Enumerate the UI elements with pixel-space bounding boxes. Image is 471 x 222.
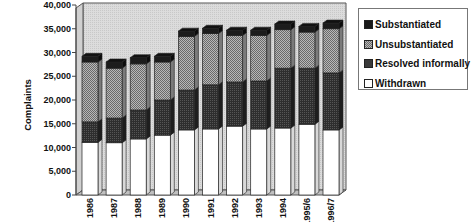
legend-swatch xyxy=(364,20,373,29)
bar-stack-1994 xyxy=(275,21,295,195)
legend-label: Withdrawn xyxy=(375,78,426,89)
bar-unsubstantiated xyxy=(82,62,98,122)
bar-top-face xyxy=(106,59,126,62)
bar-withdrawn-side xyxy=(291,125,295,195)
y-axis: 05,00010,00015,00020,00025,00030,00035,0… xyxy=(43,0,76,200)
bar-withdrawn-side xyxy=(219,126,223,195)
bar-withdrawn xyxy=(130,139,146,195)
x-tick-label: 1993 xyxy=(254,198,264,218)
bar-unsubstantiated-side xyxy=(194,33,198,90)
bar-substantiated xyxy=(323,23,339,29)
bar-resolved-informally xyxy=(154,100,170,135)
bar-stack-1989 xyxy=(154,53,174,195)
bar-withdrawn-side xyxy=(170,132,174,195)
bar-unsubstantiated xyxy=(323,29,339,73)
x-tick-label: 1996/7 xyxy=(326,198,336,222)
bar-resolved-informally xyxy=(227,82,243,126)
bar-substantiated xyxy=(154,56,170,62)
bar-substantiated xyxy=(82,56,98,62)
y-tick-label: 0 xyxy=(66,190,71,200)
bar-resolved-informally xyxy=(275,68,291,128)
bar-stack-1986 xyxy=(82,53,102,195)
bar-unsubstantiated-side xyxy=(219,31,223,85)
bar-resolved-informally xyxy=(82,122,98,142)
bar-stack-1991 xyxy=(203,25,223,195)
legend-item: Unsubstantiated xyxy=(364,35,467,55)
bar-resolved-informally xyxy=(106,118,122,143)
bar-substantiated xyxy=(106,62,122,68)
bar-withdrawn xyxy=(323,130,339,195)
bar-unsubstantiated-side xyxy=(339,26,343,73)
bar-substantiated xyxy=(275,24,291,30)
bar-unsubstantiated xyxy=(154,62,170,100)
bar-stack-1987 xyxy=(106,59,126,195)
bar-stack-1988 xyxy=(130,55,150,195)
legend: SubstantiatedUnsubstantiatedResolved inf… xyxy=(358,8,468,90)
bar-unsubstantiated xyxy=(251,35,267,81)
y-tick-label: 20,000 xyxy=(43,95,71,105)
bar-withdrawn-side xyxy=(194,127,198,195)
bar-unsubstantiated xyxy=(203,34,219,85)
bar-withdrawn xyxy=(154,135,170,195)
bar-resolved-informally xyxy=(251,81,267,129)
bar-top-face xyxy=(275,21,295,24)
bar-resolved-informally-side xyxy=(219,82,223,129)
y-tick-label: 35,000 xyxy=(43,24,71,34)
bar-withdrawn-side xyxy=(98,139,102,195)
x-tick-label: 1992 xyxy=(230,198,240,218)
bar-stack-1992 xyxy=(227,27,247,195)
bar-top-face xyxy=(154,53,174,56)
y-tick-label: 30,000 xyxy=(43,48,71,58)
bar-resolved-informally xyxy=(203,85,219,129)
bar-stack-1990 xyxy=(178,28,198,195)
bar-resolved-informally xyxy=(323,73,339,130)
x-tick-label: 1994 xyxy=(278,198,288,218)
bar-unsubstantiated-side xyxy=(146,61,150,110)
x-tick-label: 1989 xyxy=(157,198,167,218)
bar-unsubstantiated xyxy=(299,32,315,68)
bar-resolved-informally-side xyxy=(194,87,198,130)
bar-unsubstantiated-side xyxy=(315,29,319,68)
legend-swatch xyxy=(364,79,373,88)
bar-withdrawn xyxy=(178,130,194,195)
bar-resolved-informally xyxy=(299,68,315,124)
bar-top-face xyxy=(178,28,198,31)
bar-top-face xyxy=(82,53,102,56)
legend-item: Withdrawn xyxy=(364,74,467,94)
bar-resolved-informally-side xyxy=(315,65,319,124)
legend-item: Substantiated xyxy=(364,15,467,35)
bar-resolved-informally-side xyxy=(291,65,295,128)
y-tick-label: 5,000 xyxy=(48,166,71,176)
bar-unsubstantiated-side xyxy=(291,27,295,68)
bar-top-face xyxy=(251,27,271,30)
bar-withdrawn xyxy=(275,128,291,195)
y-tick-label: 10,000 xyxy=(43,143,71,153)
bar-unsubstantiated xyxy=(106,68,122,118)
bar-top-face xyxy=(323,20,343,23)
legend-swatch xyxy=(364,40,373,49)
bar-unsubstantiated xyxy=(227,35,243,82)
x-tick-label: 1987 xyxy=(109,198,119,218)
bar-unsubstantiated-side xyxy=(170,59,174,100)
bar-stack-1995-6 xyxy=(299,23,319,195)
bar-withdrawn-side xyxy=(243,123,247,195)
bar-stack-1993 xyxy=(251,27,271,195)
bar-withdrawn xyxy=(227,126,243,195)
bar-withdrawn xyxy=(299,124,315,195)
legend-label: Substantiated xyxy=(375,19,441,30)
x-axis: 1986198719881989199019911992199319941995… xyxy=(85,198,336,222)
bar-resolved-informally xyxy=(130,110,146,139)
bar-unsubstantiated-side xyxy=(243,32,247,82)
bar-top-face xyxy=(203,25,223,28)
bar-substantiated xyxy=(203,28,219,33)
bar-top-face xyxy=(227,27,247,30)
bar-unsubstantiated-side xyxy=(267,32,271,81)
bar-withdrawn-side xyxy=(146,136,150,195)
bar-withdrawn xyxy=(106,143,122,195)
bar-resolved-informally-side xyxy=(243,79,247,126)
bar-withdrawn xyxy=(251,129,267,195)
y-tick-label: 25,000 xyxy=(43,71,71,81)
x-tick-label: 1991 xyxy=(206,198,216,218)
y-tick-label: 15,000 xyxy=(43,119,71,129)
y-axis-label: Complaints xyxy=(22,79,33,131)
